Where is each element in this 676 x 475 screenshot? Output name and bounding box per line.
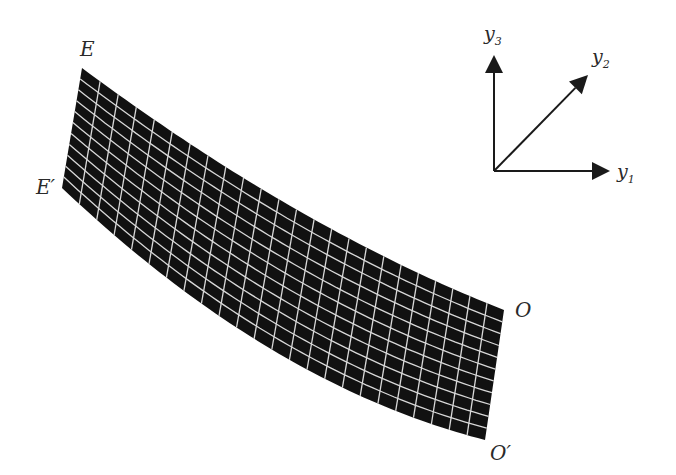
y2-axis-line bbox=[494, 88, 575, 171]
y1-arrowhead-icon bbox=[592, 162, 610, 180]
label-E: E bbox=[79, 37, 95, 61]
label-O-prime: O′ bbox=[490, 441, 511, 465]
y3-arrowhead-icon bbox=[485, 55, 503, 73]
curved-shell bbox=[62, 68, 504, 440]
label-O: O bbox=[515, 298, 531, 322]
label-E-prime: E′ bbox=[35, 175, 56, 199]
y2-axis-label: y2 bbox=[591, 45, 610, 71]
y1-axis-label: y1 bbox=[616, 160, 635, 186]
diagram-canvas: E E′ O O′ y1 y2 y3 bbox=[0, 0, 676, 475]
y3-axis-label: y3 bbox=[483, 22, 502, 48]
coordinate-axes: y1 y2 y3 bbox=[483, 22, 635, 186]
